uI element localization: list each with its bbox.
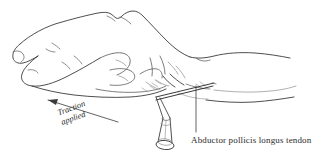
label-abductor-pollicis-longus-tendon: Abductor pollicis longus tendon — [191, 135, 311, 146]
needle-inserted-at-wrist — [156, 83, 216, 100]
curled-fingers — [13, 43, 135, 86]
thumb — [32, 56, 185, 97]
arrow-head-icon — [48, 99, 58, 105]
hand-dorsum-outline — [20, 11, 190, 57]
figure-illustration: Abductor pollicis longus tendon Traction… — [0, 0, 318, 160]
